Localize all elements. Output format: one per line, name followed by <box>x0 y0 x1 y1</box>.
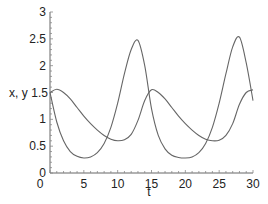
axes <box>50 12 253 173</box>
y-tick-labels: 00.5122.531.5 <box>29 5 48 180</box>
series-lines <box>50 37 253 158</box>
y-tick-label: 0.5 <box>29 139 46 153</box>
y-tick-label: 3 <box>39 5 46 19</box>
x-tick-label: 30 <box>246 177 260 191</box>
series-line-x <box>50 37 253 158</box>
series-line-y <box>50 89 253 141</box>
y-tick-label: 2.5 <box>29 32 46 46</box>
x-tick-label: 25 <box>212 177 226 191</box>
x-tick-label: 5 <box>80 177 87 191</box>
x-tick-label: 10 <box>111 177 125 191</box>
y-axis-label: x, y <box>9 86 28 100</box>
x-tick-label: 0 <box>37 177 44 191</box>
y-tick-label: 1 <box>39 112 46 126</box>
y-tick-label: 2 <box>39 59 46 73</box>
y-tick-label: 1.5 <box>31 86 48 100</box>
line-chart: 00.5122.531.5 051015202530 x, y t <box>0 0 268 204</box>
x-tick-label: 20 <box>179 177 193 191</box>
